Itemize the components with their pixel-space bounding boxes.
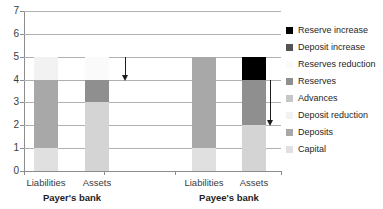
legend-item-deposits[interactable]: Deposits (286, 124, 383, 141)
bar-segment-deposit-reduction (34, 57, 58, 80)
bar-segment-deposits (192, 80, 216, 149)
x-category-label-1: Assets (62, 177, 132, 188)
x-tick-mark-3 (281, 171, 282, 175)
x-tick-mark-0 (24, 171, 25, 175)
legend-label: Advances (298, 94, 338, 103)
legend-label: Reserves (298, 77, 336, 86)
legend-label: Deposit increase (298, 43, 365, 52)
bar-segment-reserves-reduction (85, 57, 109, 80)
chart-legend: Reserve increaseDeposit increaseReserves… (286, 22, 383, 158)
x-category-label-3: Assets (219, 177, 289, 188)
payee-reserves-increase-arrow-head (267, 120, 273, 126)
bar-segment-deposit-increase (192, 57, 216, 80)
bar-payeesbank-assets (242, 11, 266, 171)
balance-sheet-stacked-bar-chart: 76543210 LiabilitiesAssetsLiabilitiesAss… (0, 0, 383, 209)
legend-label: Capital (298, 145, 326, 154)
legend-swatch-icon (286, 27, 293, 34)
legend-item-reserves[interactable]: Reserves (286, 73, 383, 90)
y-tick-label-7: 7 (2, 6, 19, 16)
legend-swatch-icon (286, 112, 293, 119)
y-tick-label-6: 6 (2, 29, 19, 39)
legend-label: Reserve increase (298, 26, 368, 35)
legend-label: Deposit reduction (298, 111, 368, 120)
bar-segment-advances (85, 102, 109, 171)
legend-swatch-icon (286, 78, 293, 85)
payer-reserves-decrease-arrow-shaft (125, 57, 126, 76)
y-tick-label-5: 5 (2, 52, 19, 62)
x-tick-mark-1 (104, 171, 105, 175)
legend-label: Deposits (298, 128, 333, 137)
legend-swatch-icon (286, 61, 293, 68)
x-group-label-payeesbank: Payee's bank (169, 192, 289, 203)
legend-item-deposit-increase[interactable]: Deposit increase (286, 39, 383, 56)
x-axis-line (24, 171, 281, 172)
bar-segment-deposits (34, 80, 58, 149)
bar-segment-capital (192, 148, 216, 171)
bar-payeesbank-liabilities (192, 11, 216, 171)
y-tick-label-2: 2 (2, 120, 19, 130)
bar-payersbank-liabilities (34, 11, 58, 171)
y-tick-label-1: 1 (2, 143, 19, 153)
x-group-label-payersbank: Payer's bank (12, 192, 132, 203)
plot-area (24, 11, 280, 171)
legend-item-capital[interactable]: Capital (286, 141, 383, 158)
bar-segment-reserves (85, 80, 109, 103)
legend-swatch-icon (286, 146, 293, 153)
x-tick-mark-2 (175, 171, 176, 175)
legend-swatch-icon (286, 44, 293, 51)
payer-reserves-decrease-arrow-head (122, 75, 128, 81)
legend-swatch-icon (286, 129, 293, 136)
y-tick-label-3: 3 (2, 97, 19, 107)
legend-swatch-icon (286, 95, 293, 102)
bar-segment-advances (242, 125, 266, 171)
y-tick-label-0: 0 (2, 166, 19, 176)
y-tick-label-4: 4 (2, 75, 19, 85)
legend-item-deposit-reduction[interactable]: Deposit reduction (286, 107, 383, 124)
legend-item-reserves-reduction[interactable]: Reserves reduction (286, 56, 383, 73)
bar-payersbank-assets (85, 11, 109, 171)
payee-reserves-increase-arrow-shaft (270, 80, 271, 122)
bar-segment-reserves (242, 80, 266, 126)
bar-segment-capital (34, 148, 58, 171)
bar-segment-reserve-increase (242, 57, 266, 80)
legend-label: Reserves reduction (298, 60, 376, 69)
legend-item-reserve-increase[interactable]: Reserve increase (286, 22, 383, 39)
legend-item-advances[interactable]: Advances (286, 90, 383, 107)
